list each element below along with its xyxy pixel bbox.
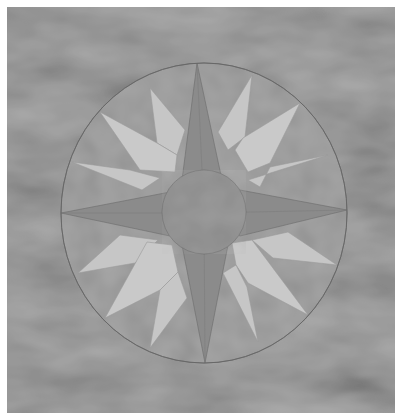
compass-quilt-image bbox=[7, 7, 395, 413]
compass-block bbox=[61, 63, 347, 363]
center-texture bbox=[162, 170, 246, 254]
photo-frame: Mariner's compass quilt block bbox=[7, 7, 395, 413]
